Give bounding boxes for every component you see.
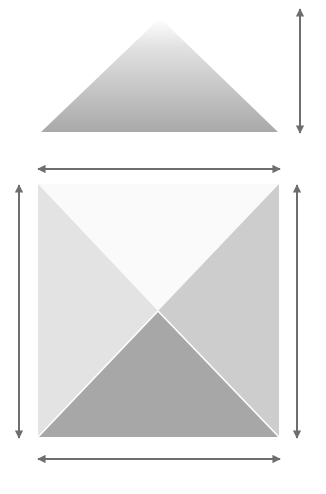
elevation-view bbox=[41, 18, 278, 132]
plan-view bbox=[38, 184, 279, 437]
pyramid-diagram bbox=[0, 0, 326, 494]
pyramid-elevation-triangle bbox=[41, 18, 278, 132]
